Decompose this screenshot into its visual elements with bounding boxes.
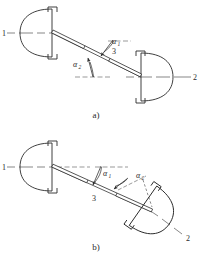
label-angle-alpha1-sub-b: 1 xyxy=(109,173,112,179)
label-angle-alpha1-sub-a: 1 xyxy=(118,41,121,47)
caption-panel-a: a) xyxy=(93,110,100,120)
label-shaft-1-a: 1 xyxy=(2,29,6,38)
label-angle-alpha2-sub-b: 2 xyxy=(142,175,145,181)
caption-panel-b: b) xyxy=(92,242,100,252)
panel-a: 1 2 xyxy=(2,7,197,120)
label-angle-alpha1-b: α xyxy=(103,169,108,178)
label-angle-alpha2-a: α xyxy=(73,60,78,69)
label-shaft-2-b: 2 xyxy=(186,234,190,243)
technical-drawing-universal-joint-shafts: 1 2 xyxy=(0,0,200,254)
label-shaft-3-a: 3 xyxy=(112,47,116,56)
label-shaft-3-b: 3 xyxy=(92,194,96,203)
label-angle-alpha2-sub-a: 2 xyxy=(79,64,82,70)
panel-b: 1 3 α 1 xyxy=(2,141,190,252)
angle-alpha1-b xyxy=(93,166,102,185)
label-angle-alpha1-a: α xyxy=(112,37,117,46)
intermediate-shaft-3-a xyxy=(52,30,142,77)
axis-line-2-b xyxy=(152,212,182,234)
label-shaft-1-b: 1 xyxy=(2,163,6,172)
label-shaft-2-a: 2 xyxy=(193,73,197,82)
